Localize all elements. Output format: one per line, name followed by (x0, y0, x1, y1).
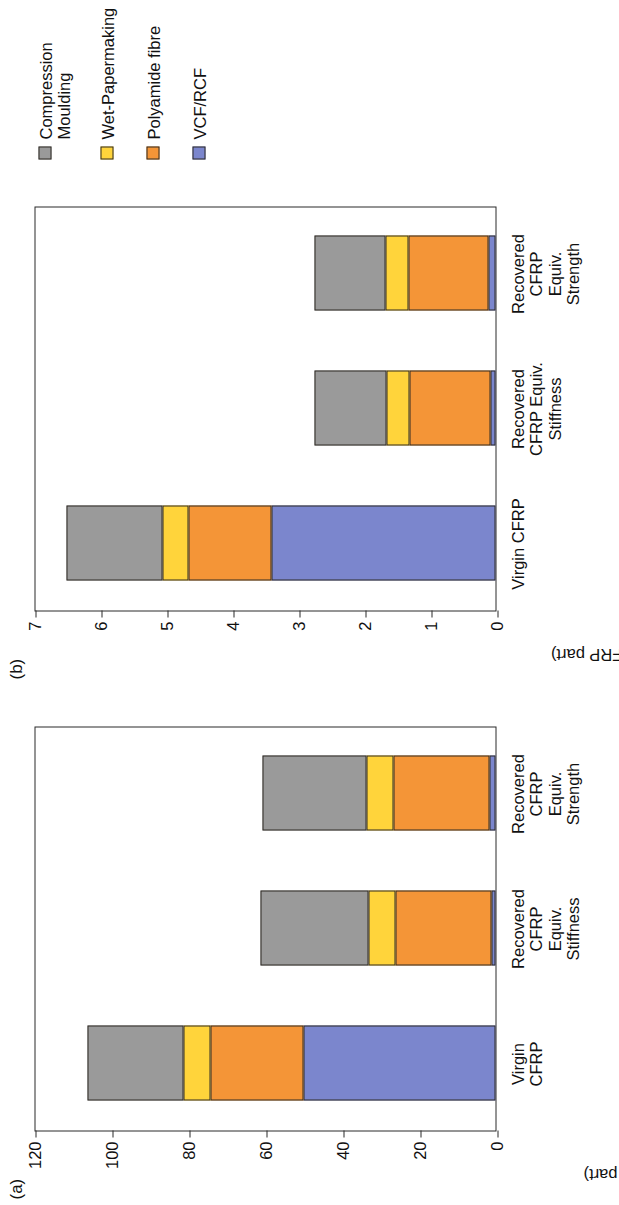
bar-segment (303, 1025, 496, 1101)
legend-swatch-icon (146, 146, 159, 159)
panel-a-axis-title: Primary energy demand (MJ/CFRP part) (496, 1164, 619, 1183)
bar-segment (271, 505, 495, 581)
axis-tick (266, 1130, 267, 1137)
bar-segment (66, 505, 162, 581)
legend-item-label: Wet-Papermaking (98, 7, 116, 139)
legend-item: Compression Moulding (36, 42, 72, 159)
stacked-bar (33, 755, 495, 831)
axis-tick-label: 2 (356, 621, 375, 630)
category-label: Virgin CFRP (508, 498, 526, 589)
panel-b-category-labels: Virgin CFRPRecovered CFRP Equiv. Stiffne… (500, 206, 610, 611)
axis-tick (101, 610, 102, 617)
axis-tick (299, 610, 300, 617)
stacked-bar (33, 505, 495, 581)
panel-b-axis-title-wrapper: Greenhouse gas emission (kgCO₂eq./CFRP p… (496, 643, 619, 663)
axis-tick (35, 610, 36, 617)
legend-item: Polyamide fibre (144, 25, 162, 159)
axis-tick (365, 610, 366, 617)
legend-swatch-icon (192, 146, 205, 159)
axis-tick (497, 1130, 498, 1137)
axis-tick-label: 6 (92, 621, 111, 630)
stacked-bar (33, 235, 495, 311)
axis-tick (167, 610, 168, 617)
legend-item-label: Polyamide fibre (144, 25, 162, 139)
panel-a-tag: (a) (6, 1178, 26, 1199)
axis-tick (233, 610, 234, 617)
category-label: Recovered CFRP Equiv. Stiffness (508, 889, 582, 969)
bar-segment (188, 505, 271, 581)
bar-segment (393, 755, 489, 831)
axis-tick-label: 4 (224, 621, 243, 630)
bar-segment (262, 755, 366, 831)
axis-tick-label: 40 (334, 1141, 353, 1159)
bar-segment (395, 890, 491, 966)
axis-tick (420, 1130, 421, 1137)
figure-upright: (a) Primary energy demand (MJ/CFRP part)… (0, 0, 619, 1205)
axis-tick (112, 1130, 113, 1137)
bar-segment (368, 890, 395, 966)
bar-segment (490, 370, 495, 446)
legend-item: VCF/RCF (190, 68, 208, 160)
axis-tick (343, 1130, 344, 1137)
bar-segment (260, 890, 368, 966)
axis-tick (189, 1130, 190, 1137)
category-label: Recovered CFRP Equiv. Strength (508, 234, 582, 314)
bar-segment (87, 1025, 183, 1101)
axis-tick (431, 610, 432, 617)
axis-tick-label: 120 (26, 1141, 45, 1169)
panel-b-axis-title: Greenhouse gas emission (kgCO₂eq./CFRP p… (496, 644, 619, 663)
panel-a-axis-title-wrapper: Primary energy demand (MJ/CFRP part) (496, 1163, 619, 1183)
bar-segment (366, 755, 393, 831)
legend-item: Wet-Papermaking (98, 7, 116, 159)
axis-tick-label: 80 (180, 1141, 199, 1159)
stacked-bar (33, 1025, 495, 1101)
bar-segment (488, 235, 495, 311)
bar-segment (489, 755, 495, 831)
axis-tick-label: 20 (411, 1141, 430, 1159)
bar-segment (314, 235, 385, 311)
axis-tick (497, 610, 498, 617)
legend-swatch-icon (38, 146, 51, 159)
legend-swatch-icon (100, 146, 113, 159)
panel-a: (a) Primary energy demand (MJ/CFRP part)… (0, 685, 619, 1205)
bar-segment (385, 235, 408, 311)
axis-tick-label: 7 (26, 621, 45, 630)
panel-a-bars (35, 727, 495, 1130)
panel-b-tag: (b) (6, 658, 26, 679)
stacked-bar (33, 370, 495, 446)
stacked-bar-figure: (a) Primary energy demand (MJ/CFRP part)… (0, 0, 619, 1205)
bar-segment (409, 370, 490, 446)
axis-tick-label: 60 (257, 1141, 276, 1159)
panel-b-plot-area: 01234567 (34, 206, 496, 611)
category-label: Virgin CFRP (508, 1041, 545, 1086)
panel-a-category-labels: Virgin CFRPRecovered CFRP Equiv. Stiffne… (500, 726, 610, 1131)
bar-segment (408, 235, 489, 311)
axis-tick-label: 3 (290, 621, 309, 630)
stacked-bar (33, 890, 495, 966)
figure-rotated-wrapper: (a) Primary energy demand (MJ/CFRP part)… (0, 0, 619, 1205)
panel-b-bars (35, 207, 495, 610)
bar-segment (162, 505, 188, 581)
axis-tick-label: 100 (103, 1141, 122, 1169)
category-label: Recovered CFRP Equiv. Strength (508, 754, 582, 834)
axis-tick (35, 1130, 36, 1137)
bar-segment (210, 1025, 302, 1101)
axis-tick-label: 0 (488, 1141, 507, 1150)
bar-segment (386, 370, 409, 446)
category-label: Recovered CFRP Equiv. Stiffness (508, 362, 563, 456)
bar-segment (491, 890, 495, 966)
bar-segment (314, 370, 387, 446)
panel-a-plot-area: 020406080100120 (34, 726, 496, 1131)
legend-item-label: Compression Moulding (36, 42, 72, 139)
axis-tick-label: 0 (488, 621, 507, 630)
bar-segment (183, 1025, 210, 1101)
axis-tick-label: 5 (158, 621, 177, 630)
legend-item-label: VCF/RCF (190, 68, 208, 140)
axis-tick-label: 1 (422, 621, 441, 630)
panel-b: (b) Greenhouse gas emission (kgCO₂eq./CF… (0, 165, 619, 685)
